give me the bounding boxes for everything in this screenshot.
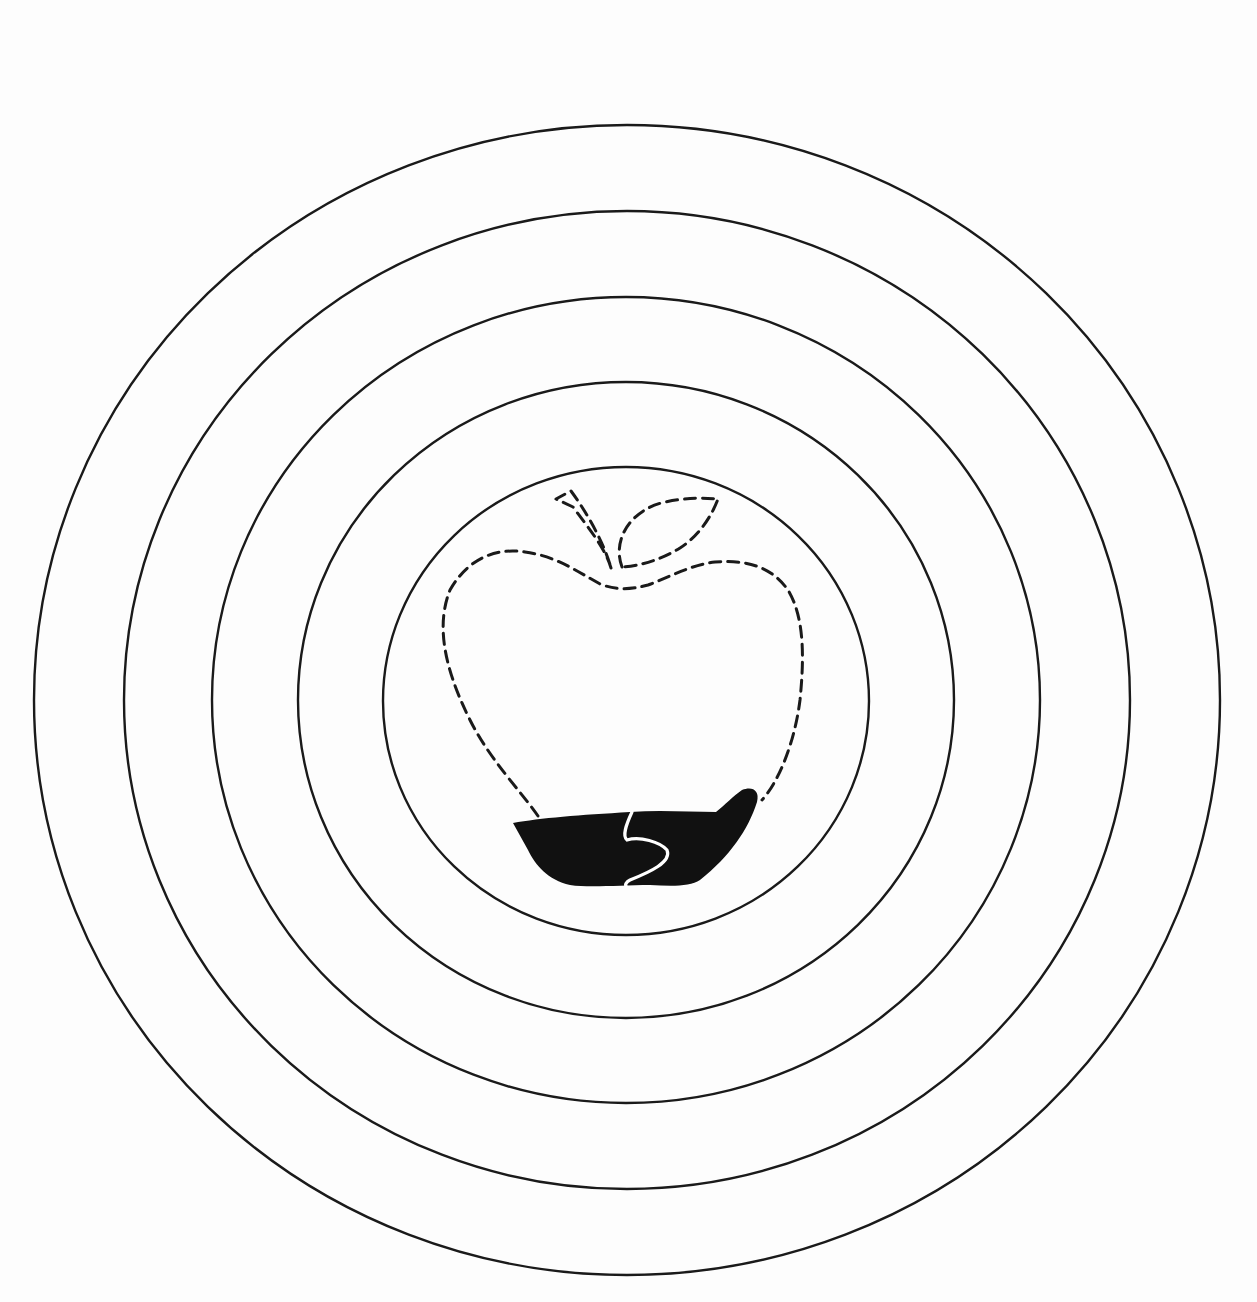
- apple-body-outline: [443, 551, 802, 816]
- ring-2: [124, 211, 1130, 1189]
- concentric-apple-illustration: [0, 0, 1257, 1302]
- apple-stem: [556, 491, 611, 568]
- ring-4: [298, 382, 954, 1018]
- apple-leaf: [619, 498, 718, 567]
- concentric-rings: [34, 125, 1220, 1275]
- ring-3: [212, 297, 1040, 1103]
- apple-icon: [443, 491, 802, 886]
- illustration-canvas: [0, 0, 1257, 1302]
